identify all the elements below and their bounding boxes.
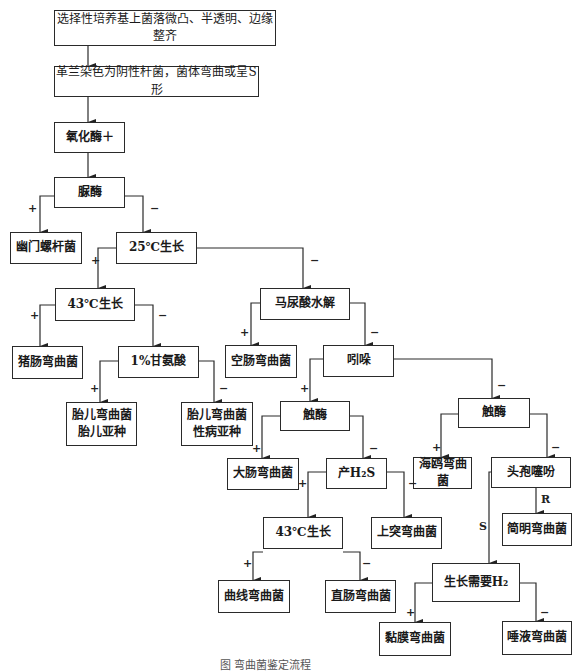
edge-label-plus: + [406, 606, 415, 619]
edge-label-resistant: R [541, 493, 550, 506]
node-growth-43c-lower: 43℃生长 [263, 517, 343, 549]
node-cephalothin: 头孢噻吩 [491, 457, 571, 488]
node-growth-43c: 43℃生长 [55, 288, 135, 321]
edge-label-minus: − [540, 606, 549, 619]
edge-label-minus: − [551, 441, 560, 454]
edge-label-plus: + [432, 441, 441, 454]
figure-caption: 图 弯曲菌鉴定流程 [220, 656, 312, 672]
node-growth-25c: 25℃生长 [116, 232, 197, 264]
node-c-rectus: 直肠弯曲菌 [325, 580, 396, 613]
edge-label-plus: + [91, 254, 100, 267]
node-c-lari: 海鸥弯曲菌 [413, 457, 472, 489]
edge-label-plus: + [252, 442, 261, 455]
edge-label-minus: − [497, 379, 506, 392]
edge-label-plus: + [240, 326, 249, 339]
node-c-sputorum: 唾液弯曲菌 [502, 621, 572, 655]
node-h2s-production: 产H₂S [326, 458, 387, 489]
node-catalase-right: 触酶 [458, 398, 530, 428]
node-h-pylori: 幽门螺杆菌 [10, 232, 82, 264]
node-c-upsaliensis: 上突弯曲菌 [371, 517, 442, 549]
edge-label-minus: − [150, 202, 159, 215]
edge-label-plus: + [298, 477, 307, 490]
edge-label-plus: + [243, 557, 252, 570]
node-colony-morphology: 选择性培养基上菌落微凸、半透明、边缘整齐 [54, 10, 276, 46]
edge-label-plus: + [90, 382, 99, 395]
edge-label-plus: + [28, 202, 37, 215]
node-indole: 吲哚 [323, 345, 394, 377]
edge-label-minus: − [219, 382, 228, 395]
edge-label-minus: − [408, 477, 417, 490]
node-c-fetus-fetus: 胎儿弯曲菌 胎儿亚种 [66, 402, 137, 446]
node-c-concisus: 简明弯曲菌 [502, 513, 572, 546]
node-urease: 脲酶 [54, 177, 125, 208]
edge-label-minus: − [370, 326, 379, 339]
node-c-coli: 大肠弯曲菌 [227, 458, 299, 490]
edge-label-minus: − [310, 254, 319, 267]
edge-label-minus: − [369, 442, 378, 455]
node-c-hyointestinalis: 猪肠弯曲菌 [12, 346, 83, 379]
edge-label-plus: + [30, 309, 39, 322]
node-requires-h2: 生长需要H₂ [432, 563, 520, 602]
node-c-curvus: 曲线弯曲菌 [218, 580, 290, 613]
edge-label-plus: + [300, 382, 309, 395]
edge-label-minus: − [362, 557, 371, 570]
node-c-fetus-venerealis: 胎儿弯曲菌 性病亚种 [181, 402, 253, 446]
node-hippurate-hydrolysis: 马尿酸水解 [260, 288, 350, 320]
node-gram-stain: 革兰染色为阴性杆菌，菌体弯曲或呈S形 [54, 66, 259, 97]
edge-label-minus: − [158, 309, 167, 322]
node-catalase-left: 触酶 [280, 401, 350, 431]
edge-label-sensitive: S [479, 520, 487, 533]
node-c-jejuni: 空肠弯曲菌 [225, 345, 297, 378]
node-oxidase: 氧化酶＋ [54, 122, 125, 153]
node-c-mucosalis: 黏膜弯曲菌 [379, 622, 451, 656]
node-glycine-1pct: 1%甘氨酸 [118, 346, 199, 378]
